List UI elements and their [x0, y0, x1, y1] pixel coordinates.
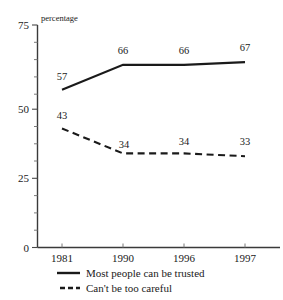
value-label-solid-1997: 67 — [240, 42, 251, 53]
y-tick-label-50: 50 — [18, 103, 30, 115]
x-tick-label-1997: 1997 — [234, 252, 257, 264]
value-label-solid-1990: 66 — [118, 45, 129, 56]
value-label-dashed-1996: 34 — [179, 136, 190, 147]
y-tick-label-25: 25 — [18, 172, 30, 184]
line-chart: 75 50 25 0 percentage 1981 1990 1996 199… — [0, 0, 283, 300]
legend: Most people can be trusted Can't be too … — [57, 267, 205, 294]
value-label-dashed-1997: 33 — [240, 136, 251, 147]
y-axis-title: percentage — [41, 13, 78, 23]
x-tick-label-1996: 1996 — [173, 252, 196, 264]
y-tick-label-0: 0 — [24, 242, 30, 254]
series-line-most-people-can-be-trusted — [62, 62, 245, 90]
value-label-dashed-1990: 34 — [119, 139, 130, 150]
series-line-cant-be-too-careful — [62, 129, 245, 157]
value-label-solid-1981: 57 — [57, 71, 68, 82]
value-label-solid-1996: 66 — [179, 45, 190, 56]
chart-canvas: 75 50 25 0 percentage 1981 1990 1996 199… — [0, 0, 283, 300]
x-tick-label-1981: 1981 — [51, 252, 73, 264]
legend-item-most-people-can-be-trusted[interactable]: Most people can be trusted — [57, 267, 205, 279]
legend-label-solid: Most people can be trusted — [86, 267, 205, 279]
value-label-dashed-1981: 43 — [57, 110, 68, 121]
legend-label-dashed: Can't be too careful — [86, 282, 172, 294]
y-tick-label-75: 75 — [18, 19, 30, 31]
legend-item-cant-be-too-careful[interactable]: Can't be too careful — [60, 282, 172, 294]
x-tick-label-1990: 1990 — [112, 252, 135, 264]
